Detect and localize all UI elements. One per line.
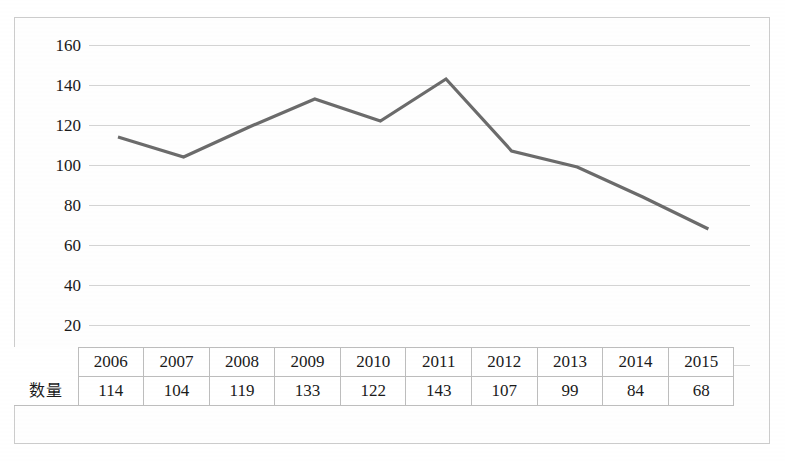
table-row-quantity: 数量 114 104 119 133 122 143 107 99 84 68 <box>14 377 734 406</box>
table-cell-2006: 114 <box>78 377 144 406</box>
row-header-quantity: 数量 <box>14 377 78 406</box>
table-cell-2008: 119 <box>209 377 275 406</box>
column-header-2008: 2008 <box>209 348 275 377</box>
column-header-2012: 2012 <box>472 348 538 377</box>
table-cell-2009: 133 <box>275 377 341 406</box>
data-table: 2006 2007 2008 2009 2010 2011 2012 2013 … <box>14 347 734 406</box>
table-cell-2012: 107 <box>472 377 538 406</box>
table-corner-cell <box>14 348 78 377</box>
column-header-2015: 2015 <box>668 348 734 377</box>
table-cell-2010: 122 <box>340 377 406 406</box>
table-cell-2013: 99 <box>537 377 603 406</box>
column-header-2007: 2007 <box>144 348 210 377</box>
table-cell-2015: 68 <box>668 377 734 406</box>
column-header-2006: 2006 <box>78 348 144 377</box>
column-header-2014: 2014 <box>603 348 669 377</box>
table-row-header: 2006 2007 2008 2009 2010 2011 2012 2013 … <box>14 348 734 377</box>
column-header-2009: 2009 <box>275 348 341 377</box>
column-header-2011: 2011 <box>406 348 472 377</box>
table-cell-2014: 84 <box>603 377 669 406</box>
table-cell-2007: 104 <box>144 377 210 406</box>
table-cell-2011: 143 <box>406 377 472 406</box>
column-header-2013: 2013 <box>537 348 603 377</box>
column-header-2010: 2010 <box>340 348 406 377</box>
